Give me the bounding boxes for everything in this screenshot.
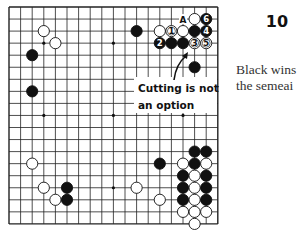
white-stone: [189, 206, 200, 217]
black-stone: [189, 62, 200, 73]
black-stone: [177, 182, 188, 193]
white-stone: [50, 194, 61, 205]
move-number: 4: [203, 26, 209, 36]
go-board: Cutting is not an option 614235 A: [0, 0, 230, 239]
white-stone: [189, 218, 200, 229]
black-stone: [201, 146, 212, 157]
white-stone: [154, 194, 165, 205]
star-point: [42, 114, 45, 117]
white-stone: [154, 26, 165, 37]
move-number: 3: [192, 38, 198, 48]
annotation-line-2: an option: [138, 99, 194, 111]
white-stone: [189, 13, 200, 24]
white-stone: [201, 158, 212, 169]
black-stone: [27, 50, 38, 61]
black-stone: [201, 182, 212, 193]
white-stone: [50, 38, 61, 49]
black-stone: [154, 158, 165, 169]
star-point: [112, 186, 115, 189]
star-point: [112, 42, 115, 45]
white-stone: [131, 182, 142, 193]
white-stone: [189, 194, 200, 205]
white-stone: [38, 182, 49, 193]
black-stone: [61, 194, 72, 205]
white-stone: [189, 170, 200, 181]
black-stone: [131, 26, 142, 37]
white-stone: [38, 26, 49, 37]
black-stone: [177, 194, 188, 205]
black-stone: [166, 38, 177, 49]
white-stone: 5: [201, 38, 212, 49]
black-stone: 4: [201, 26, 212, 37]
white-stone: 1: [166, 26, 177, 37]
star-point: [112, 114, 115, 117]
star-point: [42, 42, 45, 45]
annotation-line-1: Cutting is not: [138, 82, 219, 94]
stones-layer: 614235: [27, 13, 212, 229]
white-stone: 3: [189, 38, 200, 49]
black-stone: [177, 170, 188, 181]
caption-line-1: Black wins: [236, 62, 307, 78]
diagram-caption: Black wins the semeai: [236, 62, 307, 94]
move-number: 1: [168, 26, 174, 36]
move-number: 5: [203, 38, 209, 48]
black-stone: [177, 38, 188, 49]
black-stone: [201, 194, 212, 205]
white-stone: [27, 158, 38, 169]
black-stone: 2: [154, 38, 165, 49]
move-number: 6: [203, 14, 209, 24]
point-labels: A: [179, 14, 187, 24]
white-stone: [177, 26, 188, 37]
black-stone: 6: [201, 13, 212, 24]
star-point: [181, 114, 184, 117]
diagram-number: 10: [262, 12, 292, 31]
white-stone: [189, 182, 200, 193]
black-stone: [61, 182, 72, 193]
black-stone: [201, 170, 212, 181]
white-stone: [177, 158, 188, 169]
arrow-icon: [174, 56, 186, 80]
move-number: 2: [157, 38, 163, 48]
black-stone: [189, 158, 200, 169]
black-stone: [27, 86, 38, 97]
caption-line-2: the semeai: [236, 78, 307, 94]
white-stone: [177, 206, 188, 217]
black-stone: [189, 146, 200, 157]
white-stone: [201, 206, 212, 217]
point-label-a: A: [180, 15, 187, 25]
black-stone: [189, 26, 200, 37]
